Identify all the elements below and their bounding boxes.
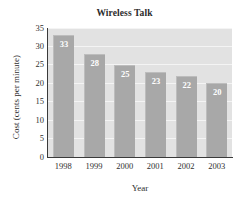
y-tick-label: 35 xyxy=(20,24,44,33)
bar-slot: 20 xyxy=(201,28,232,157)
bar: 23 xyxy=(145,72,166,157)
bar: 28 xyxy=(84,54,105,157)
x-tick-label: 2000 xyxy=(109,161,140,171)
bar: 22 xyxy=(176,76,197,157)
y-tick-label: 20 xyxy=(20,79,44,88)
bar-value-label: 33 xyxy=(54,40,74,49)
y-tick-label: 15 xyxy=(20,97,44,106)
y-tick-label: 0 xyxy=(20,153,44,162)
bar-value-label: 20 xyxy=(207,88,227,97)
y-tick-label: 30 xyxy=(20,42,44,51)
bar-value-label: 22 xyxy=(177,81,197,90)
x-tick-label: 1999 xyxy=(79,161,110,171)
x-tick-label: 2002 xyxy=(171,161,202,171)
bar-slot: 25 xyxy=(109,28,140,157)
bar: 25 xyxy=(114,65,135,157)
x-tick-label: 2001 xyxy=(140,161,171,171)
x-tick-label: 2003 xyxy=(201,161,232,171)
bar-slot: 28 xyxy=(79,28,110,157)
bar-value-label: 28 xyxy=(85,59,105,68)
y-tick-label: 5 xyxy=(20,134,44,143)
bar: 20 xyxy=(206,83,227,157)
bar-slot: 23 xyxy=(140,28,171,157)
bar-slot: 22 xyxy=(171,28,202,157)
x-axis-label: Year xyxy=(48,183,232,193)
y-axis-line xyxy=(47,28,48,158)
x-axis-line xyxy=(47,157,233,158)
x-axis-tick-labels: 199819992000200120022003 xyxy=(48,161,232,175)
bars-group: 332825232220 xyxy=(48,28,232,157)
bar-chart-figure: Wireless Talk Cost (cents per minute) 35… xyxy=(0,0,249,202)
y-axis-tick-labels: 35302520151050 xyxy=(20,0,44,202)
bar: 33 xyxy=(53,35,74,157)
y-tick-label: 10 xyxy=(20,116,44,125)
bar-value-label: 25 xyxy=(115,70,135,79)
y-tick-label: 25 xyxy=(20,60,44,69)
bar-value-label: 23 xyxy=(146,77,166,86)
bar-slot: 33 xyxy=(48,28,79,157)
plot-area: 332825232220 xyxy=(48,28,232,157)
x-tick-label: 1998 xyxy=(48,161,79,171)
